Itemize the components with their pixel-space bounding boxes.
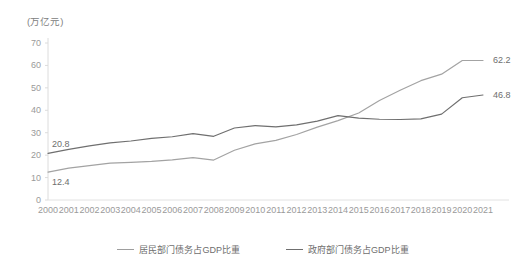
legend-label-residential: 居民部门债务占GDP比重 (139, 243, 240, 256)
legend-line-swatch-government (286, 249, 303, 250)
x-tick-label: 2020 (452, 205, 472, 215)
x-tick-label: 2016 (369, 205, 389, 215)
x-tick-label: 2019 (432, 205, 452, 215)
x-tick-label: 2011 (266, 205, 285, 215)
line-chart-plot: 010203040506070 200020012002200320042005… (0, 0, 526, 272)
x-tick-label: 2007 (183, 205, 203, 215)
chart-legend: 居民部门债务占GDP比重 政府部门债务占GDP比重 (0, 243, 526, 256)
legend-item-government[interactable]: 政府部门债务占GDP比重 (286, 243, 409, 256)
legend-label-government: 政府部门债务占GDP比重 (308, 243, 409, 256)
x-tick-label: 2014 (328, 205, 348, 215)
y-axis-group: 010203040506070 (31, 38, 48, 205)
y-tick-label: 40 (31, 105, 41, 115)
x-tick-label: 2002 (79, 205, 99, 215)
label-end-residential: 62.2 (493, 55, 511, 65)
label-start-government: 20.8 (52, 139, 70, 149)
x-tick-label: 2021 (473, 205, 493, 215)
label-start-residential: 12.4 (52, 177, 70, 187)
x-tick-label: 2017 (390, 205, 410, 215)
y-tick-label: 50 (31, 83, 41, 93)
y-tick-label: 20 (31, 150, 41, 160)
x-axis-group: 2000200120022003200420052006200720082009… (38, 200, 509, 215)
x-tick-label: 2013 (307, 205, 327, 215)
x-tick-label: 2005 (142, 205, 162, 215)
label-end-government: 46.8 (493, 90, 511, 100)
x-tick-label: 2009 (224, 205, 244, 215)
x-tick-label: 2003 (100, 205, 120, 215)
y-tick-label: 10 (31, 173, 41, 183)
legend-line-swatch-residential (117, 249, 134, 250)
x-tick-label: 2000 (38, 205, 58, 215)
x-tick-label: 2018 (411, 205, 431, 215)
x-tick-label: 2006 (162, 205, 182, 215)
point-labels-group: 20.812.462.246.8 (52, 55, 511, 187)
series-line-residential (48, 60, 483, 172)
legend-item-residential[interactable]: 居民部门债务占GDP比重 (117, 243, 240, 256)
x-tick-label: 2010 (245, 205, 265, 215)
series-group (48, 60, 483, 172)
chart-container: (万亿元) 010203040506070 200020012002200320… (0, 0, 526, 272)
y-tick-label: 70 (31, 38, 41, 48)
y-tick-label: 30 (31, 128, 41, 138)
x-tick-label: 2012 (287, 205, 307, 215)
y-tick-label: 60 (31, 60, 41, 70)
series-line-government (48, 95, 483, 153)
y-tick-label: 0 (36, 195, 41, 205)
x-tick-label: 2008 (204, 205, 224, 215)
x-tick-label: 2004 (121, 205, 141, 215)
x-tick-label: 2001 (59, 205, 79, 215)
x-tick-label: 2015 (349, 205, 369, 215)
